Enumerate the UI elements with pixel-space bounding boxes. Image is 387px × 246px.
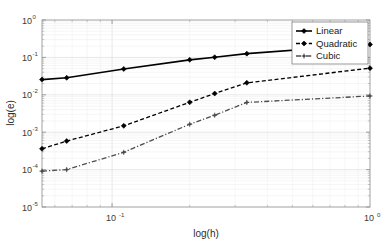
svg-text:10: 10	[22, 165, 32, 175]
convergence-loglog-chart: 10010-110-210-310-410-5 10-1100 log(h) l…	[0, 0, 387, 246]
svg-text:10: 10	[22, 90, 32, 100]
svg-text:-2: -2	[33, 88, 39, 94]
svg-text:10: 10	[22, 53, 32, 63]
figure-container: 10010-110-210-310-410-5 10-1100 log(h) l…	[0, 0, 387, 246]
svg-text:-1: -1	[33, 51, 39, 57]
svg-text:10: 10	[106, 213, 116, 223]
x-axis-title: log(h)	[193, 228, 219, 239]
svg-text:10: 10	[22, 128, 32, 138]
svg-text:-1: -1	[119, 212, 125, 218]
svg-text:10: 10	[22, 203, 32, 213]
legend-label: Quadratic	[316, 38, 357, 49]
y-axis-title: log(e)	[5, 100, 16, 126]
svg-text:-5: -5	[33, 201, 39, 207]
svg-text:-4: -4	[33, 163, 39, 169]
chart-legend[interactable]: LinearQuadraticCubic	[292, 22, 368, 64]
svg-text:10: 10	[364, 213, 374, 223]
svg-text:-3: -3	[33, 126, 39, 132]
svg-text:10: 10	[22, 16, 32, 26]
legend-label: Cubic	[316, 50, 341, 61]
legend-label: Linear	[316, 25, 342, 36]
